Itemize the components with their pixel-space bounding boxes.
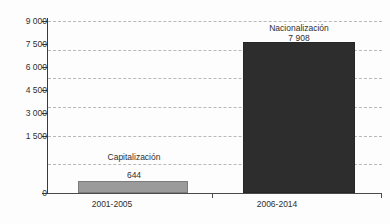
bar-chart: 9 000 7 500 6 000 4 500 3 000 1 500 0 20…: [0, 0, 390, 224]
bar-capitalizacion[interactable]: [78, 181, 188, 193]
x-tick-divider: [212, 193, 213, 198]
y-tick-label-3000: 3 000: [3, 109, 47, 118]
x-axis-label-2001-2005: 2001-2005: [78, 199, 146, 209]
y-tick-label-4500: 4 500: [3, 86, 47, 95]
bar-nacionalizacion[interactable]: [243, 42, 355, 193]
plot-area: [48, 18, 382, 193]
bar-label-nacionalizacion: Nacionalización: [243, 23, 355, 33]
y-tick-label-9000: 9 000: [3, 17, 47, 26]
x-axis-line: [47, 193, 382, 194]
y-tick-label-7500: 7 500: [3, 40, 47, 49]
y-tick-label-0: 0: [3, 189, 47, 198]
bar-value-capitalizacion: 644: [78, 170, 190, 180]
y-tick-label-1500: 1 500: [3, 132, 47, 141]
x-tick-end: [381, 193, 382, 198]
y-tick-label-6000: 6 000: [3, 63, 47, 72]
bar-label-capitalizacion: Capitalización: [78, 152, 190, 162]
gridline-9000: [48, 21, 382, 22]
x-axis-label-2006-2014: 2006-2014: [243, 199, 311, 209]
bar-value-nacionalizacion: 7 908: [243, 33, 355, 43]
